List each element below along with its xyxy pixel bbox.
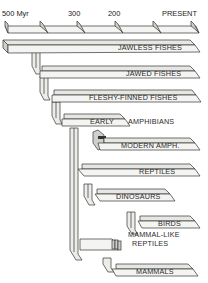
label-modern-amphibians: MODERN AMPH.	[121, 141, 180, 150]
branch-jawed-fishes: JAWED FISHES	[40, 66, 200, 78]
label-mammal-like: MAMMAL-LIKE	[128, 230, 180, 239]
label-fleshy-finned-fishes: FLESHY-FINNED FISHES	[89, 93, 177, 102]
label-reptiles-2: REPTILES	[132, 239, 168, 248]
branch-reptiles: REPTILES	[78, 164, 200, 176]
time-axis: 500 Myr 300 200 PRESENT	[2, 9, 199, 33]
label-jawed-fishes: JAWED FISHES	[126, 69, 181, 78]
label-jawless-fishes: JAWLESS FISHES	[118, 43, 182, 52]
label-early: EARLY	[90, 117, 114, 126]
phylogenetic-tree-diagram: 500 Myr 300 200 PRESENT JAWLESS FISHES	[0, 0, 208, 283]
axis-label-500: 500 Myr	[2, 9, 29, 18]
label-reptiles: REPTILES	[139, 167, 175, 176]
branch-jawless-fishes: JAWLESS FISHES	[3, 40, 200, 53]
branch-mammals: MAMMALS	[112, 264, 198, 276]
axis-label-present: PRESENT	[162, 9, 197, 18]
branch-mammal-like-reptiles: MAMMAL-LIKE REPTILES	[80, 230, 180, 250]
label-mammals: MAMMALS	[136, 267, 174, 276]
axis-label-300: 300	[68, 9, 80, 18]
axis-label-200: 200	[108, 9, 120, 18]
branch-modern-amphibians: MODERN AMPH.	[93, 130, 200, 150]
branch-early-amphibians: EARLY AMPHIBIANS	[62, 114, 174, 126]
label-dinosaurs: DINOSAURS	[116, 192, 161, 201]
branch-birds: BIRDS	[138, 216, 200, 228]
label-birds: BIRDS	[158, 219, 181, 228]
branch-dinosaurs: DINOSAURS	[95, 189, 175, 201]
label-amphibians: AMPHIBIANS	[128, 117, 174, 126]
branch-fleshy-finned-fishes: FLESHY-FINNED FISHES	[52, 90, 201, 102]
